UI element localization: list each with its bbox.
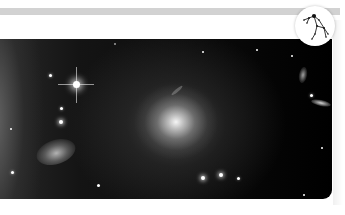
star [202,51,204,53]
star [256,49,258,51]
faint-streak [171,85,184,96]
spiral-galaxy [33,134,78,169]
star [49,74,52,77]
star [237,177,240,180]
star [114,43,116,45]
star [97,184,100,187]
small-galaxy [298,66,309,83]
star [59,120,63,124]
star [291,55,293,57]
galaxy-photo-card[interactable] [0,39,332,199]
star [201,176,205,180]
header-band [0,15,332,39]
edge-on-galaxy [311,98,332,108]
edge-shadow [333,20,343,205]
bright-star [73,81,80,88]
constellation-badge[interactable] [295,6,335,46]
top-divider-bar [0,8,340,15]
star [321,147,323,149]
star [10,128,12,130]
star [219,173,223,177]
star [303,194,305,196]
app-stage [0,0,345,215]
star [310,94,313,97]
star [11,171,14,174]
constellation-icon [295,6,335,46]
star [60,107,63,110]
